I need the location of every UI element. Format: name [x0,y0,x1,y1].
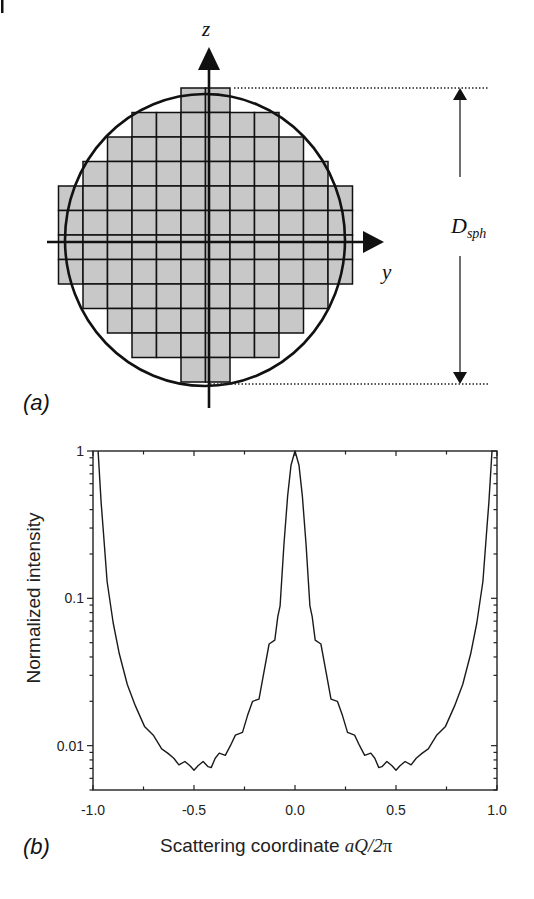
voxel-cell [157,186,182,211]
axis-ticks [87,451,497,790]
voxel-cell [255,309,280,334]
voxel-cell [157,260,182,285]
figure: z y Dsph (a) -1.0-0.50.00.51.010.10.01 N… [0,0,534,899]
voxel-cell [181,284,206,309]
diameter-label: Dsph [450,213,486,241]
voxel-cell [132,211,157,236]
voxel-cell [181,358,206,383]
voxel-cell [157,309,182,334]
voxel-cell [108,186,133,211]
voxel-cell [83,162,108,187]
voxel-cell [157,284,182,309]
voxel-cell [255,284,280,309]
z-axis-label: z [201,17,210,41]
voxel-cell [132,137,157,162]
voxel-cell [230,186,255,211]
voxel-cell [279,260,304,285]
plot-frame [93,451,497,790]
voxel-cell [279,162,304,187]
y-axis-arrowhead-icon [363,231,384,253]
voxel-cell [255,113,280,138]
voxel-cell [157,333,182,358]
voxel-cell [279,235,304,260]
y-tick-label: 0.1 [65,590,85,606]
voxel-cell [304,284,329,309]
voxel-cell [59,211,84,236]
voxel-cell [181,186,206,211]
voxel-cell [132,162,157,187]
voxel-cell [279,309,304,334]
voxel-cell [181,260,206,285]
voxel-cell [83,235,108,260]
voxel-cell [132,113,157,138]
z-axis-arrowhead-icon [198,47,220,70]
voxel-cell [255,235,280,260]
voxel-cell [255,333,280,358]
voxel-cell [59,235,84,260]
corner-mark [1,0,4,13]
voxel-cell [181,88,206,113]
voxel-cell [230,235,255,260]
x-tick-label: 1.0 [487,802,507,818]
voxel-cell [157,162,182,187]
voxel-cell [230,260,255,285]
x-axis-title-text: Scattering coordinate [160,835,345,856]
x-axis-title-math: aQ/2 [345,835,384,856]
voxel-cell [132,309,157,334]
voxel-cell [83,260,108,285]
voxel-cell [279,137,304,162]
panel-b-label: (b) [23,834,50,859]
voxel-cell [83,284,108,309]
voxel-cell [230,309,255,334]
voxel-cell [157,137,182,162]
panel-b-chart: -1.0-0.50.00.51.010.10.01 Normalized int… [23,443,507,859]
voxel-cell [157,235,182,260]
y-tick-label: 0.01 [57,738,84,754]
voxel-cell [304,186,329,211]
voxel-cell [255,186,280,211]
voxel-cell [230,284,255,309]
voxel-cell [181,162,206,187]
panel-a-diagram: z y Dsph (a) [23,17,488,415]
voxel-cell [108,284,133,309]
diameter-label-subscript: sph [467,226,486,241]
voxel-cell [230,211,255,236]
voxel-cell [132,186,157,211]
voxel-cell [181,235,206,260]
voxel-cell [181,309,206,334]
voxel-cell [304,211,329,236]
voxel-cell [132,235,157,260]
intensity-curve [98,451,492,770]
y-axis-label: y [380,260,392,284]
voxel-cell [328,235,353,260]
x-tick-label: 0.5 [386,802,406,818]
y-axis-title: Normalized intensity [23,512,44,684]
voxel-cell [108,260,133,285]
voxel-cell [328,211,353,236]
voxel-cell [83,186,108,211]
voxel-cell [255,211,280,236]
voxel-cell [157,113,182,138]
voxel-cell [108,162,133,187]
voxel-cell [279,211,304,236]
diameter-label-main: D [450,213,467,238]
diameter-arrowhead-down-icon [453,372,467,384]
voxel-cell [230,113,255,138]
voxel-cell [304,235,329,260]
voxel-cell [83,211,108,236]
voxel-cell [157,211,182,236]
x-tick-label: -1.0 [81,802,105,818]
voxel-cell [181,137,206,162]
y-tick-label: 1 [76,443,84,459]
x-tick-label: -0.5 [182,802,206,818]
x-tick-label: 0.0 [285,802,305,818]
voxel-cell [255,162,280,187]
voxel-cell [230,333,255,358]
voxel-cell [108,309,133,334]
voxel-cell [304,260,329,285]
voxel-cell [255,260,280,285]
voxel-cell [132,284,157,309]
voxel-cell [255,137,280,162]
x-axis-title: Scattering coordinate aQ/2π [160,835,393,856]
voxel-cell [230,162,255,187]
